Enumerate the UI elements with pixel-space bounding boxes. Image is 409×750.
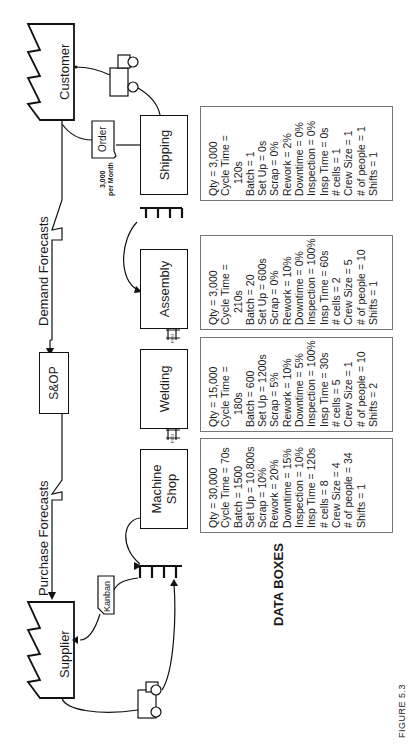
order-volume-line2: per Month [107,162,114,196]
data-line: Shifts = 1 [367,236,379,325]
data-line: Insp Time = 0s [318,107,330,196]
data-line: Set Up = 1200s [256,338,268,427]
data-line: Insp Time = 120s [305,439,317,528]
data-line: Batch = 20 [244,236,256,325]
data-line: Scrap = 0% [268,107,280,196]
data-line: # cells = 8 [318,439,330,528]
order-volume-line1: 3,000 [99,170,106,188]
purchase-forecast-line [52,414,62,592]
fifo-label-welding-assembly: FIFO [170,334,175,343]
demand-forecasts-label: Demand Forecasts [36,216,51,326]
data-line: Scrap = 0% [268,236,280,325]
data-line: # cells = 5 [330,338,342,427]
data-line: 180s [232,338,244,427]
data-line: Crew Size = 4 [330,439,342,528]
data-line: # of people = 10 [355,338,367,427]
data-line: Qty = 30,000 [207,439,219,528]
order-card-label: Order [97,126,108,152]
data-line: Inspection = 100% [305,236,317,325]
data-line: Crew Size = 5 [342,236,354,325]
data-box-shipping: Qty = 3,000 Cycle Time = 120s Batch = 1 … [200,106,393,201]
data-line: Inspection = 10% [293,439,305,528]
process-label: Machine Shop [149,464,179,513]
data-line: Downtime = 0% [293,236,305,325]
data-line: Downtime = 5% [293,338,305,427]
demand-forecast-line [50,120,62,340]
sop-box: S&OP [39,352,69,414]
process-label: Welding [157,366,172,413]
supplier-label: Supplier [57,630,72,678]
data-line: 210s [232,236,244,325]
data-line: # of people = 1 [355,107,367,196]
supplier-truck-icon [138,682,161,718]
data-line: Insp Time = 60s [318,236,330,325]
data-line: Shifts = 1 [367,107,379,196]
data-line: Rework = 2% [281,107,293,196]
customer-truck-icon [110,55,138,96]
data-line: Crew Size = 1 [342,107,354,196]
sop-label: S&OP [47,366,62,399]
data-line: Rework = 20% [268,439,280,528]
data-line: Rework = 10% [281,338,293,427]
process-label: Shipping [157,130,172,181]
process-shipping: Shipping [140,115,188,195]
data-line: Cycle Time = [219,236,231,325]
supermarket-raw-material-icon [140,566,182,578]
purchase-forecasts-label: Purchase Forecasts [36,480,51,596]
data-line: Set Up = 0s [256,107,268,196]
process-welding: Welding [140,349,188,429]
data-line: Downtime = 0% [293,107,305,196]
data-line: Crew Size = 1 [342,338,354,427]
data-line: # cells = 1 [330,107,342,196]
data-line: Cycle Time = [219,107,231,196]
data-line: Inspection = 100% [305,338,317,427]
process-label-line2: Shop [164,464,179,513]
supermarket-shipping-icon [140,208,182,218]
data-boxes-title: DATA BOXES [271,543,286,626]
data-line: Batch = 1500 [232,439,244,528]
fifo-label-machineshop-welding: FIFO [170,434,175,443]
data-line: Scrap = 10% [256,439,268,528]
data-box-machine-shop: Qty = 30,000 Cycle Time = 70s Batch = 15… [200,438,393,533]
data-line: # of people = 10 [355,236,367,325]
data-line: # of people = 34 [342,439,354,528]
process-label: Assembly [157,261,172,317]
data-line: Batch = 600 [244,338,256,427]
data-line: Cycle Time = 70s [219,439,231,528]
data-line: 120s [232,107,244,196]
data-box-assembly: Qty = 3,000 Cycle Time = 210s Batch = 20… [200,235,393,330]
data-line: Downtime = 15% [281,439,293,528]
data-line: Shifts = 1 [355,439,367,528]
customer-label: Customer [57,44,72,100]
data-line: Batch = 1 [244,107,256,196]
data-line: Insp Time = 30s [318,338,330,427]
data-line: Inspection = 0% [305,107,317,196]
process-assembly: Assembly [140,249,188,329]
data-line: Qty = 3,000 [207,236,219,325]
data-line: Qty = 15,000 [207,338,219,427]
data-line: Rework = 10% [281,236,293,325]
data-line: Set Up = 600s [256,236,268,325]
figure-caption: FIGURE 5.3 [397,684,407,738]
data-line: Set Up = 10,800s [244,439,256,528]
process-machine-shop: Machine Shop [140,449,188,529]
data-line: Qty = 3,000 [207,107,219,196]
process-label-line1: Machine [149,464,164,513]
data-line: Cycle Time = [219,338,231,427]
data-line: Scrap = 5% [268,338,280,427]
data-line: # cells = 2 [330,236,342,325]
data-line: Shifts = 2 [367,338,379,427]
kanban-card-label: Kanban [102,581,112,612]
data-box-welding: Qty = 15,000 Cycle Time = 180s Batch = 6… [200,337,393,432]
